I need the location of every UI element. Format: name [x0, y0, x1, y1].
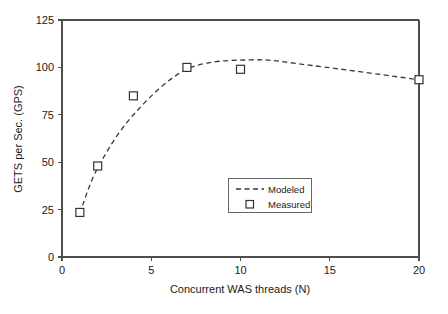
data-point-marker: [94, 162, 102, 170]
chart-container: 0255075100125 05101520 Concurrent WAS th…: [0, 0, 448, 314]
y-tick-label: 50: [42, 156, 54, 168]
y-tick-group: 0255075100125: [36, 14, 62, 263]
y-tick-label: 0: [48, 251, 54, 263]
data-point-marker: [76, 208, 84, 216]
y-tick-label: 100: [36, 61, 54, 73]
x-tick-label: 15: [324, 264, 336, 276]
y-tick-label: 75: [42, 109, 54, 121]
x-tick-label: 10: [234, 264, 246, 276]
x-tick-group: 05101520: [59, 257, 425, 276]
y-tick-label: 125: [36, 14, 54, 26]
x-tick-label: 20: [413, 264, 425, 276]
chart-svg: 0255075100125 05101520 Concurrent WAS th…: [0, 0, 448, 314]
data-point-marker: [183, 63, 191, 71]
legend-measured-swatch: [246, 201, 254, 209]
legend: Modeled Measured: [229, 179, 312, 213]
legend-label-modeled: Modeled: [268, 184, 304, 195]
plot-axes: [62, 20, 419, 257]
x-tick-label: 5: [148, 264, 154, 276]
x-tick-label: 0: [59, 264, 65, 276]
data-point-marker: [129, 92, 137, 100]
data-point-marker: [237, 65, 245, 73]
y-tick-label: 25: [42, 204, 54, 216]
x-axis-title: Concurrent WAS threads (N): [170, 283, 310, 295]
y-axis-title: GETS per Sec. (GPS): [12, 85, 24, 193]
data-point-marker: [415, 76, 423, 84]
legend-label-measured: Measured: [268, 199, 310, 210]
